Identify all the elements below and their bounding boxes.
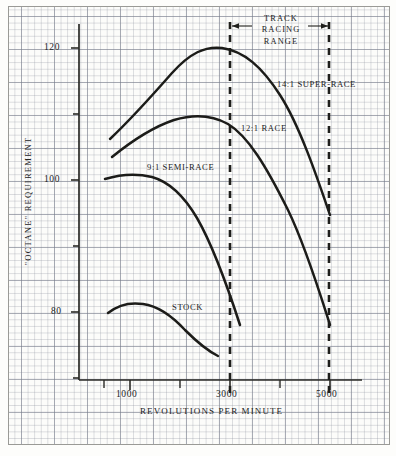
curve-race [112,116,330,325]
chart-figure: "OCTANE" REQUIREMENT 120 100 80 1000 300… [0,0,396,456]
track-range-right-arrowhead [321,23,328,29]
y-tick-label-100: 100 [44,174,60,185]
track-range-left-arrowhead [232,23,239,29]
x-tick-label-5000: 5000 [316,389,337,400]
x-tick-label-1000: 1000 [116,389,137,400]
curve-label-semi-race: 9:1 SEMI-RACE [147,163,214,173]
curve-label-super-race: 14:1 SUPER-RACE [277,80,356,90]
x-tick-label-3000: 3000 [216,389,237,400]
curve-super-race [110,48,330,215]
track-racing-range-line-3: RANGE [247,36,315,47]
track-racing-range-line-1: TRACK [247,13,315,24]
curve-label-race: 12:1 RACE [241,124,287,134]
track-racing-range-line-2: RACING [247,24,315,35]
chart-plot-area [0,0,396,456]
y-tick-label-120: 120 [44,42,60,53]
x-axis-title: REVOLUTIONS PER MINUTE [140,406,283,416]
y-axis-title: "OCTANE" REQUIREMENT [23,121,33,281]
y-tick-label-80: 80 [51,306,62,317]
curve-label-stock: STOCK [172,303,203,313]
track-racing-range-callout: TRACK RACING RANGE [247,13,315,47]
